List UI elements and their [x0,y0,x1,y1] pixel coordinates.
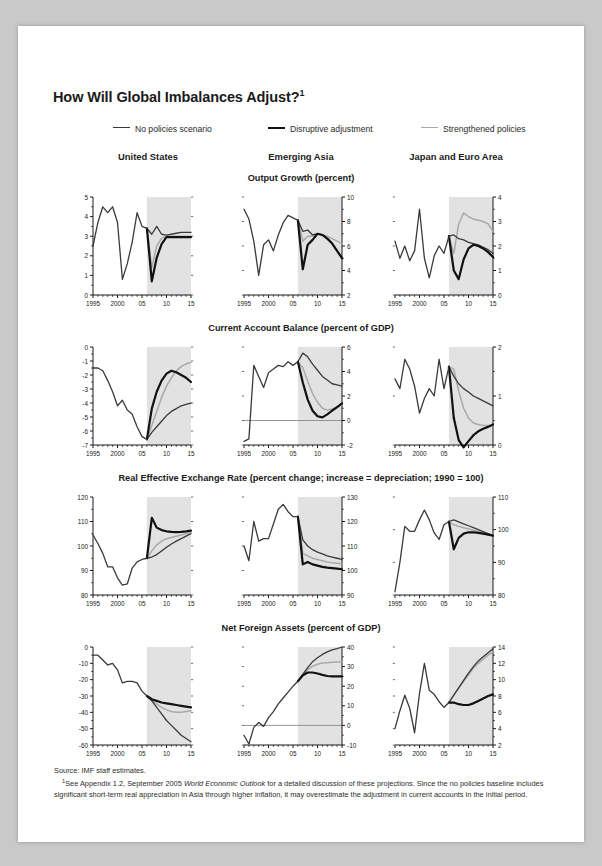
x-tick-label: 2000 [412,450,427,457]
history-line [93,368,147,439]
y-tick-label: -20 [79,676,89,683]
column-header-emerging-asia: Emerging Asia [216,151,386,162]
y-tick-label: 2 [498,344,502,351]
x-tick-label: 10 [465,450,473,457]
y-tick-label: 5 [84,194,88,201]
chart-panel-united-states-output: 01234519952000051015 [63,189,221,309]
chart-panel-united-states-current: -7-6-5-4-3-2-1019952000051015 [63,339,221,459]
y-tick-label: 4 [347,368,351,375]
x-tick-label: 15 [338,450,346,457]
y-tick-label: 10 [347,702,355,709]
footnote-source: Source: IMF staff estimates. [54,766,554,776]
projection-shading [147,197,191,295]
x-tick-label: 2000 [412,300,427,307]
chart-panel-japan-and-euro-area-net: 246810121419952000051015 [365,639,523,759]
x-tick-label: 05 [440,300,448,307]
x-tick-label: 15 [489,300,497,307]
x-tick-label: 2000 [261,750,276,757]
x-tick-label: 1995 [388,600,403,607]
y-tick-label: 20 [347,683,355,690]
y-tick-label: 2 [347,292,351,299]
y-tick-label: -2 [347,442,353,449]
y-tick-label: -60 [79,742,89,749]
legend-swatch-strengthened [421,127,438,128]
x-tick-label: 1995 [237,300,252,307]
y-tick-label: 8 [498,693,502,700]
x-tick-label: 2000 [261,600,276,607]
y-tick-label: 100 [347,567,358,574]
x-tick-label: 1995 [388,300,403,307]
y-tick-label: 3 [498,218,502,225]
x-tick-label: 05 [289,450,297,457]
legend-label-strengthened: Strengthened policies [443,124,526,134]
x-tick-label: 15 [489,750,497,757]
y-tick-label: 100 [77,543,88,550]
x-tick-label: 10 [163,300,171,307]
x-tick-label: 2000 [110,600,125,607]
history-line [395,359,449,413]
footnote-part1: See Appendix 1.2, September 2005 [65,780,184,789]
x-tick-label: 15 [338,300,346,307]
x-tick-label: 1995 [86,750,101,757]
x-tick-label: 10 [163,600,171,607]
section-title-current-account: Current Account Balance (percent of GDP) [18,323,584,333]
column-header-united-states: United States [63,151,233,162]
history-line [244,362,298,442]
projection-shading [147,647,191,745]
y-tick-label: 80 [498,592,506,599]
chart-panel-united-states-real: 809010011012019952000051015 [63,489,221,609]
x-tick-label: 05 [138,450,146,457]
projection-shading [298,347,342,445]
y-tick-label: 6 [347,344,351,351]
x-tick-label: 2000 [412,600,427,607]
legend-item-disruptive: Disruptive adjustment [268,123,373,137]
y-tick-label: 6 [498,709,502,716]
footnote-italic-title: World Economic Outlook [184,780,265,789]
history-line [395,663,449,732]
footnote-1: 1See Appendix 1.2, September 2005 World … [54,776,554,800]
y-tick-label: 4 [347,267,351,274]
chart-panel-japan-and-euro-area-current: 01219952000051015 [365,339,523,459]
y-tick-label: -50 [79,725,89,732]
section-title-reer: Real Effective Exchange Rate (percent ch… [18,473,584,483]
x-tick-label: 10 [163,750,171,757]
y-tick-label: -30 [79,693,89,700]
x-tick-label: 10 [163,450,171,457]
x-tick-label: 1995 [86,600,101,607]
x-tick-label: 1995 [237,750,252,757]
y-tick-label: 110 [78,518,89,525]
y-tick-label: 1 [498,267,502,274]
x-tick-label: 1995 [86,450,101,457]
y-tick-label: 4 [498,194,502,201]
y-tick-label: 90 [498,559,506,566]
figure-title-text: How Will Global Imbalances Adjust? [53,89,300,105]
x-tick-label: 10 [314,450,322,457]
x-tick-label: 2000 [261,300,276,307]
x-tick-label: 1995 [388,450,403,457]
x-tick-label: 10 [314,750,322,757]
x-tick-label: 10 [465,750,473,757]
x-tick-label: 1995 [237,450,252,457]
y-tick-label: 110 [347,543,358,550]
y-tick-label: 0 [498,292,502,299]
y-tick-label: -7 [82,442,88,449]
projection-shading [298,197,342,295]
y-tick-label: -10 [79,660,89,667]
legend-label-disruptive: Disruptive adjustment [290,124,373,134]
y-tick-label: 100 [498,526,509,533]
legend-item-no-policies: No policies scenario [113,123,212,137]
x-tick-label: 10 [314,600,322,607]
x-tick-label: 05 [289,300,297,307]
y-tick-label: 10 [347,194,355,201]
x-tick-label: 05 [440,750,448,757]
y-tick-label: 1 [84,272,88,279]
x-tick-label: 2000 [110,300,125,307]
figure-inner: How Will Global Imbalances Adjust?1 No p… [18,26,584,842]
history-line [93,535,147,585]
x-tick-label: 05 [440,600,448,607]
x-tick-label: 2000 [110,450,125,457]
y-tick-label: -10 [347,742,357,749]
y-tick-label: 40 [347,644,355,651]
x-tick-label: 15 [187,600,195,607]
y-tick-label: 2 [498,742,502,749]
